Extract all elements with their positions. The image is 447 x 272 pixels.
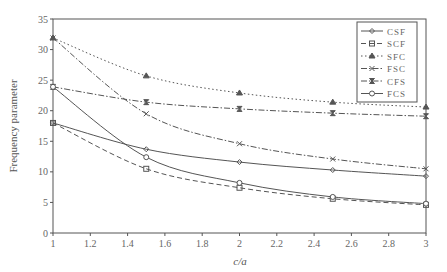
x-tick-label: 2 xyxy=(237,238,242,249)
y-tick-label: 35 xyxy=(38,14,48,25)
x-tick-label: 1.8 xyxy=(196,238,209,249)
legend-label: CFS xyxy=(387,77,406,87)
x-tick-label: 3 xyxy=(424,238,429,249)
legend: CSFSCFSFCFSCCFSFCS xyxy=(357,22,417,102)
triangle-marker-icon xyxy=(143,73,149,78)
x-axis-label: c/a xyxy=(233,255,247,267)
x-tick-label: 2.6 xyxy=(345,238,358,249)
x-tick-label: 1.4 xyxy=(121,238,134,249)
y-axis-label: Frequency parameter xyxy=(7,79,19,172)
triangle-marker-icon xyxy=(330,99,336,104)
series-line xyxy=(53,87,426,204)
x-tick-label: 2.2 xyxy=(271,238,284,249)
series-fcs xyxy=(51,84,429,206)
y-tick-label: 25 xyxy=(38,75,48,86)
x-tick-label: 2.8 xyxy=(382,238,395,249)
legend-label: FSC xyxy=(387,64,406,74)
y-tick-label: 0 xyxy=(43,228,48,239)
circle-marker-icon xyxy=(424,201,429,206)
series-csf xyxy=(51,120,429,178)
line-chart: 0510152025303511.21.41.61.822.22.42.62.8… xyxy=(0,0,447,272)
series-line xyxy=(53,123,426,176)
x-marker-icon xyxy=(144,111,149,116)
circle-marker-icon xyxy=(370,91,375,96)
legend-label: CSF xyxy=(387,27,406,37)
y-tick-label: 20 xyxy=(38,105,48,116)
x-tick-label: 2.4 xyxy=(308,238,321,249)
y-tick-label: 5 xyxy=(43,197,48,208)
circle-marker-icon xyxy=(144,155,149,160)
y-tick-label: 10 xyxy=(38,166,48,177)
circle-marker-icon xyxy=(51,84,56,89)
legend-label: SCF xyxy=(387,39,406,49)
y-tick-label: 15 xyxy=(38,136,48,147)
x-tick-label: 1.2 xyxy=(84,238,97,249)
x-tick-label: 1 xyxy=(51,238,56,249)
circle-marker-icon xyxy=(237,180,242,185)
x-tick-label: 1.6 xyxy=(159,238,172,249)
legend-label: SFC xyxy=(387,52,406,62)
circle-marker-icon xyxy=(330,194,335,199)
legend-label: FCS xyxy=(387,89,406,99)
y-tick-label: 30 xyxy=(38,44,48,55)
